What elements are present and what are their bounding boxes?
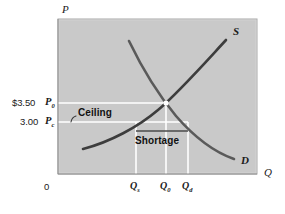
quantity-demanded-subscript: d: [189, 186, 192, 193]
quantity-demanded-label: Qd: [182, 181, 192, 194]
equilibrium-quantity-subscript: 0: [167, 186, 170, 193]
chart-canvas: [0, 0, 285, 214]
ceiling-price-symbol: Pc: [45, 116, 54, 129]
demand-curve-label: D: [241, 155, 249, 166]
equilibrium-price-symbol-subscript: 0: [51, 102, 54, 109]
origin-label: 0: [44, 182, 49, 192]
supply-curve-label: S: [233, 26, 239, 37]
price-ceiling-diagram: P Q 0 $3.50 P0 3.00 Pc Ceiling Shortage …: [0, 0, 285, 214]
ceiling-price-value: 3.00: [20, 117, 38, 127]
quantity-supplied-subscript: s: [137, 186, 140, 193]
quantity-supplied-label: Qs: [130, 181, 140, 194]
shortage-annotation: Shortage: [135, 136, 179, 146]
equilibrium-quantity-label: Q0: [160, 181, 170, 194]
ceiling-annotation: Ceiling: [78, 108, 112, 118]
y-axis-label: P: [62, 4, 69, 15]
equilibrium-price-symbol: P0: [45, 97, 55, 110]
plot-area-background: [58, 19, 257, 174]
ceiling-price-symbol-subscript: c: [51, 121, 54, 128]
equilibrium-price-value: $3.50: [12, 98, 35, 108]
equilibrium-point-marker: [163, 100, 168, 105]
x-axis-label: Q: [264, 167, 272, 178]
